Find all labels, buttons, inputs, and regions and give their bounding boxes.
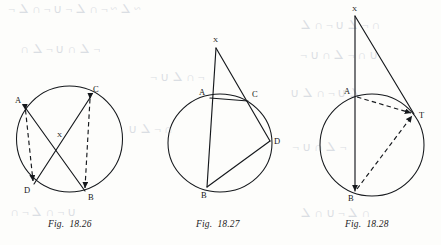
fig3-line-XT-tangent [355, 16, 414, 114]
figure-18-28: X A T B [0, 0, 441, 245]
figures-board: ~ ∠ ~ ⌐ ∩ ∠ ⌐ ∪ ⌐ ∩ ∠ ⌐ ∩ ⌐ ∠ ∪ ⌐ ∩ ∠ ⌐ … [0, 0, 441, 245]
caption-prefix: Fig. [48, 219, 64, 229]
caption-number: 18.28 [366, 219, 388, 229]
figure-caption-18-27: Fig.18.27 [196, 219, 240, 229]
caption-number: 18.27 [217, 219, 239, 229]
fig3-circle [320, 94, 424, 196]
fig3-label-A: A [344, 86, 351, 96]
caption-number: 18.26 [69, 219, 91, 229]
fig3-chord-AT-dashed [357, 97, 411, 113]
caption-prefix: Fig. [345, 219, 361, 229]
fig3-label-T: T [419, 110, 425, 120]
fig3-geometry: X A T B [320, 5, 425, 203]
fig3-label-B: B [348, 193, 354, 203]
figure-caption-18-26: Fig.18.26 [48, 219, 92, 229]
fig3-chord-BT-dashed [357, 116, 412, 189]
figure-caption-18-28: Fig.18.28 [345, 219, 389, 229]
caption-prefix: Fig. [196, 219, 212, 229]
fig3-label-X: X [352, 5, 357, 13]
